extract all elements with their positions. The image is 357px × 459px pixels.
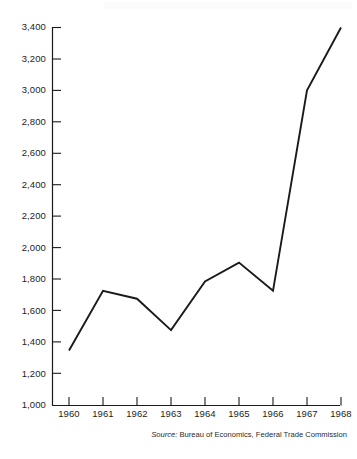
x-axis-tick-label: 1967 — [290, 409, 324, 419]
y-axis-tick-label: 1,000 — [2, 400, 46, 410]
x-axis-tick-label: 1968 — [324, 409, 357, 419]
y-axis-tick-label: 1,600 — [2, 306, 46, 316]
x-axis-tick-label: 1960 — [52, 409, 86, 419]
x-axis-tick-label: 1965 — [222, 409, 256, 419]
source-label: Source: — [151, 430, 177, 439]
source-note: Source: Bureau of Economics, Federal Tra… — [0, 430, 347, 440]
x-axis-tick-label: 1961 — [86, 409, 120, 419]
y-axis-tick-label: 2,600 — [2, 148, 46, 158]
line-chart-plot — [0, 0, 357, 459]
axes-group — [52, 27, 340, 406]
data-series-line — [69, 28, 341, 351]
y-axis-tick-label: 2,200 — [2, 211, 46, 221]
x-axis-tick-label: 1964 — [188, 409, 222, 419]
y-axis-tick-label: 3,400 — [2, 22, 46, 32]
y-axis-tick-label: 2,400 — [2, 180, 46, 190]
y-axis-tick-label: 2,000 — [2, 243, 46, 253]
y-axis-tick-label: 3,000 — [2, 85, 46, 95]
x-axis-tick-label: 1966 — [256, 409, 290, 419]
x-axis-tick-label: 1963 — [154, 409, 188, 419]
x-axis-tick-label: 1962 — [120, 409, 154, 419]
y-axis-tick-label: 3,200 — [2, 54, 46, 64]
chart-figure: 3,400 3,200 3,000 2,800 2,600 2,400 2,20… — [0, 0, 357, 459]
x-tick-marks — [69, 397, 341, 406]
y-axis-tick-label: 1,200 — [2, 369, 46, 379]
y-tick-marks — [53, 28, 62, 374]
y-axis-tick-label: 2,800 — [2, 117, 46, 127]
source-text: Bureau of Economics, Federal Trade Commi… — [177, 430, 347, 439]
y-axis-tick-label: 1,800 — [2, 274, 46, 284]
y-axis-tick-label: 1,400 — [2, 337, 46, 347]
